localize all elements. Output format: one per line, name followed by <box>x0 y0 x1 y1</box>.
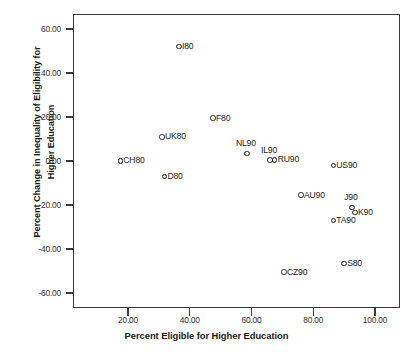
data-point-label: CH80 <box>123 155 144 165</box>
data-point-marker <box>272 157 277 162</box>
data-point-label: AU90 <box>304 190 325 200</box>
data-point-marker <box>331 163 336 168</box>
y-axis-tick <box>66 28 74 29</box>
x-axis-title: Percent Eligible for Higher Education <box>0 330 413 341</box>
data-point-marker <box>244 151 249 156</box>
x-axis-tick-label: 80.00 <box>283 315 343 325</box>
data-point-label: RU90 <box>278 154 299 164</box>
data-point-label: NL90 <box>236 138 256 148</box>
y-axis-tick <box>66 204 74 205</box>
y-axis-tick <box>66 72 74 73</box>
data-point-label: F80 <box>216 113 230 123</box>
data-point-label: S80 <box>347 258 362 268</box>
data-point-label: IL90 <box>261 145 277 155</box>
x-axis-tick-label: 40.00 <box>160 315 220 325</box>
data-point-marker <box>118 158 123 163</box>
y-axis-tick-label: 60.00 <box>1 24 61 34</box>
data-point-label: US90 <box>336 160 357 170</box>
y-axis-tick-label: -40.00 <box>1 244 61 254</box>
data-point-label: UK80 <box>165 131 186 141</box>
x-axis-tick-label: 20.00 <box>98 315 158 325</box>
y-axis-tick-label: -20.00 <box>1 200 61 210</box>
data-point-label: TA90 <box>336 215 355 225</box>
data-point-marker <box>159 134 164 139</box>
data-point-label: I80 <box>182 41 194 51</box>
data-point-marker <box>210 115 215 120</box>
y-axis-tick <box>66 248 74 249</box>
y-axis-tick-label: -60.00 <box>1 288 61 298</box>
data-point-marker <box>176 44 181 49</box>
data-point-marker <box>341 261 346 266</box>
y-axis-tick-label: 20.00 <box>1 112 61 122</box>
y-axis-tick <box>66 160 74 161</box>
y-axis-tick <box>66 116 74 117</box>
data-point-marker <box>298 192 303 197</box>
data-point-label: D80 <box>167 171 182 181</box>
data-point-marker <box>331 218 336 223</box>
scatter-plot: Percent Change in Inequality of Eligibil… <box>0 0 413 356</box>
x-axis-tick-label: 60.00 <box>222 315 282 325</box>
y-axis-tick <box>66 292 74 293</box>
data-point-label: K90 <box>358 207 373 217</box>
x-axis-tick-label: 100.00 <box>345 315 405 325</box>
y-axis-tick-label: 40.00 <box>1 68 61 78</box>
y-axis-tick-label: 0.00 <box>1 156 61 166</box>
data-point-label: J90 <box>344 192 357 202</box>
data-point-marker <box>281 269 286 274</box>
data-point-label: CZ90 <box>287 267 307 277</box>
